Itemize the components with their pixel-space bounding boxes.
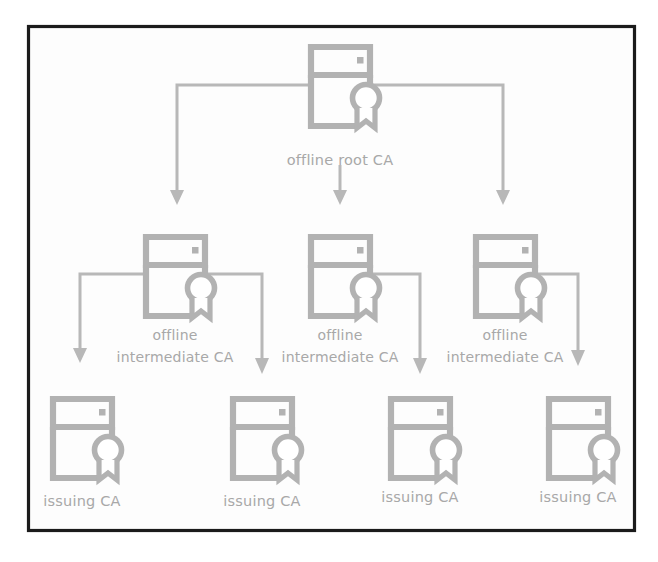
server-led-icon xyxy=(522,247,529,254)
server-led-icon xyxy=(279,409,286,416)
server-led-icon xyxy=(357,57,364,64)
node-label-root-ca: offline root CA xyxy=(287,152,394,168)
server-led-icon xyxy=(192,247,199,254)
certificate-ribbon-icon xyxy=(95,437,122,481)
node-label-intermediate-ca-3-line-2: intermediate CA xyxy=(447,349,564,365)
node-label-intermediate-ca-1-line-1: offline xyxy=(152,327,197,343)
node-label-intermediate-ca-2-line-1: offline xyxy=(317,327,362,343)
node-label-issuing-ca-1: issuing CA xyxy=(43,493,120,509)
server-led-icon xyxy=(99,409,106,416)
server-led-icon xyxy=(437,409,444,416)
pki-hierarchy-diagram: offline root CA offline intermediate CA xyxy=(0,0,658,562)
certificate-ribbon-icon xyxy=(518,275,545,319)
certificate-ribbon-icon xyxy=(353,275,380,319)
certificate-ribbon-icon xyxy=(353,85,380,129)
server-led-icon xyxy=(357,247,364,254)
node-label-intermediate-ca-3-line-1: offline xyxy=(482,327,527,343)
node-label-issuing-ca-4: issuing CA xyxy=(539,489,616,505)
certificate-ribbon-icon xyxy=(188,275,215,319)
server-led-icon xyxy=(595,409,602,416)
diagram-canvas: offline root CA offline intermediate CA xyxy=(0,0,658,562)
node-label-intermediate-ca-2-line-2: intermediate CA xyxy=(282,349,399,365)
certificate-ribbon-icon xyxy=(275,437,302,481)
certificate-ribbon-icon xyxy=(433,437,460,481)
certificate-ribbon-icon xyxy=(591,437,618,481)
node-label-intermediate-ca-1-line-2: intermediate CA xyxy=(117,349,234,365)
node-label-issuing-ca-3: issuing CA xyxy=(381,489,458,505)
node-label-issuing-ca-2: issuing CA xyxy=(223,493,300,509)
